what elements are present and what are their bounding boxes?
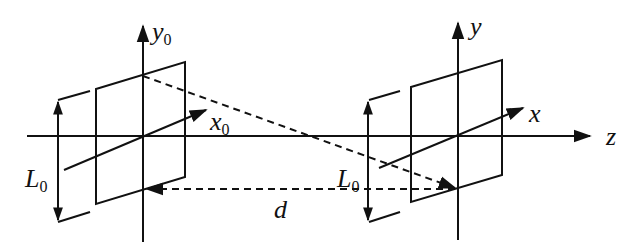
label-x: x bbox=[528, 99, 541, 128]
source-frame-top bbox=[58, 91, 90, 100]
label-x0: x0 bbox=[209, 107, 230, 138]
observation-frame-bottom bbox=[369, 212, 400, 222]
propagation-diagram: y0 x0 L0 d L0 y x z bbox=[0, 0, 639, 250]
observation-frame-top bbox=[369, 91, 400, 100]
label-L0-observation: L0 bbox=[336, 164, 359, 195]
diagonal-ray-dashed bbox=[143, 76, 455, 188]
label-y0: y0 bbox=[149, 17, 172, 48]
label-L0-source: L0 bbox=[24, 164, 47, 195]
label-y: y bbox=[467, 12, 482, 41]
observation-plane bbox=[411, 60, 502, 202]
label-z: z bbox=[605, 122, 616, 151]
source-plane bbox=[96, 62, 185, 204]
source-frame-bottom bbox=[58, 212, 90, 222]
label-d: d bbox=[274, 195, 288, 224]
